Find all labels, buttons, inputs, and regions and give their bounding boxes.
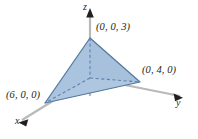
x-axis-label: x [15, 116, 19, 126]
point-label-x-intercept: (6, 0, 0) [6, 90, 40, 101]
y-axis-label: y [176, 98, 180, 108]
tetrahedron-solid [45, 38, 140, 103]
z-axis-label: z [83, 2, 87, 12]
face-plane [45, 38, 140, 103]
z-axis-arrowhead [86, 8, 94, 18]
point-label-z-intercept: (0, 0, 3) [96, 22, 130, 33]
tetrahedron-figure: z y x (0, 0, 3) (0, 4, 0) (6, 0, 0) [0, 0, 198, 139]
point-label-y-intercept: (0, 4, 0) [142, 65, 176, 76]
